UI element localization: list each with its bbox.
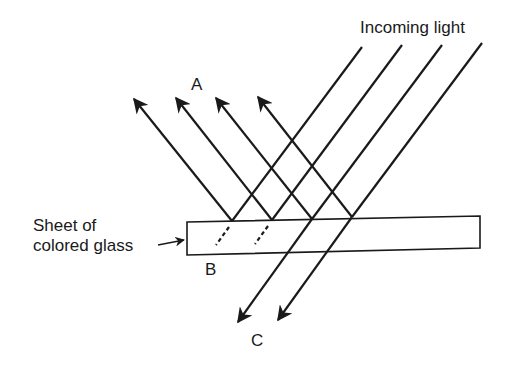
- transmitted-ray-2: [278, 217, 352, 320]
- absorbed-ray-1: [216, 227, 229, 245]
- label-b-absorbed: B: [205, 260, 216, 279]
- glass-pointer-arrow: [158, 240, 184, 245]
- reflected-ray-4: [258, 97, 352, 217]
- label-incoming-light: Incoming light: [360, 18, 465, 37]
- incoming-ray-3: [312, 45, 442, 219]
- label-c-transmitted: C: [251, 331, 263, 350]
- label-glass-line1: Sheet of: [33, 216, 97, 235]
- reflected-rays: [134, 97, 352, 221]
- light-glass-diagram: Incoming light A B C Sheet of colored gl…: [0, 0, 515, 374]
- transmitted-ray-1: [238, 219, 312, 322]
- absorbed-rays: [216, 226, 268, 245]
- transmitted-rays: [238, 217, 352, 322]
- incoming-ray-4: [352, 43, 482, 217]
- glass-sheet: [187, 216, 480, 255]
- label-a-reflected: A: [191, 75, 203, 94]
- incoming-rays: [232, 43, 482, 221]
- reflected-ray-3: [216, 98, 312, 219]
- label-glass-line2: colored glass: [33, 236, 133, 255]
- reflected-ray-2: [176, 98, 272, 220]
- reflected-ray-1: [134, 99, 232, 221]
- absorbed-ray-2: [255, 226, 268, 244]
